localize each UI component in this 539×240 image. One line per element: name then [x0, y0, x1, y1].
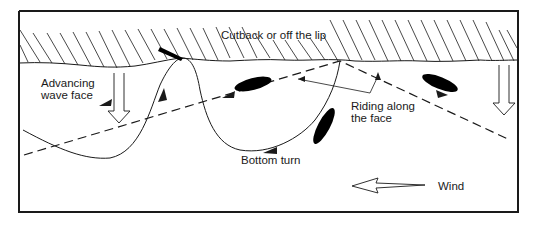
label-cutback: Cutback or off the lip	[221, 29, 326, 42]
riding-pointer-arrowhead-left	[298, 76, 305, 82]
riding-pointer-lines	[298, 76, 378, 93]
riding-pointer-arrowhead-up	[375, 72, 381, 80]
wind-arrow	[352, 178, 425, 193]
trajectory-curve	[23, 58, 340, 158]
trajectory-arrow-down	[158, 88, 167, 102]
advancing-wave-arrow-right	[493, 65, 515, 115]
label-bottom-turn: Bottom turn	[241, 154, 300, 167]
wave-crest-line	[19, 58, 518, 67]
dashed-travel-line	[24, 61, 510, 155]
surfboard-lip	[158, 47, 183, 61]
travel-arrow-left-2	[99, 99, 112, 106]
label-wind: Wind	[438, 180, 464, 193]
travel-arrow-left-1	[222, 91, 235, 98]
advancing-wave-arrow-left	[108, 73, 130, 123]
label-riding-line2: the face	[351, 112, 392, 125]
surfboard-bottom-turn	[309, 106, 338, 147]
label-advancing-line2: wave face	[41, 89, 93, 102]
